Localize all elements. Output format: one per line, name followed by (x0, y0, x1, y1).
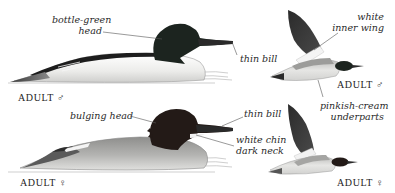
annotation-thin-bill-female: thin bill (244, 108, 281, 119)
annotation-white-inner-wing: white inner wing (330, 11, 384, 33)
annotation-line: white chin (236, 134, 286, 145)
caption-adult-male-flying: ADULT ♂ (337, 79, 384, 90)
annotation-line: underparts (320, 111, 384, 122)
caption-adult-female-swimming: ADULT ♀ (20, 177, 67, 188)
annotation-thin-bill-male: thin bill (240, 53, 277, 64)
male-swimming-illustration (8, 24, 237, 83)
annotation-bulging-head: bulging head (70, 110, 130, 121)
annotation-line: bottle-green (52, 14, 102, 25)
annotation-white-chin-dark-neck: white chin dark neck (236, 134, 286, 156)
annotation-bottle-green-head: bottle-green head (52, 14, 102, 36)
annotation-pinkish-cream-underparts: pinkish-cream underparts (320, 100, 384, 122)
caption-adult-male-swimming: ADULT ♂ (18, 92, 65, 103)
annotation-line: inner wing (330, 22, 384, 33)
annotation-line: head (52, 25, 102, 36)
annotation-line: white (330, 11, 384, 22)
annotation-line: pinkish-cream (320, 100, 384, 111)
merganser-plate: bottle-green head thin bill ADULT ♂ whit… (0, 0, 395, 193)
caption-adult-female-flying: ADULT ♀ (337, 177, 384, 188)
annotation-line: dark neck (236, 145, 286, 156)
